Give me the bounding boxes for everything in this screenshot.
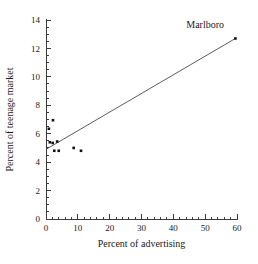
x-tick-label: 20	[105, 223, 115, 233]
x-tick-label: 40	[169, 223, 179, 233]
x-axis-tick-labels: 0102030405060	[44, 223, 242, 233]
x-axis-title: Percent of advertising	[98, 238, 186, 249]
scatter-chart-figure: 0102030405060 02468101214 Marlboro Perce…	[0, 0, 258, 264]
data-point	[234, 37, 237, 40]
data-point	[48, 127, 51, 130]
regression-fit-line	[46, 38, 235, 149]
y-tick-label: 0	[36, 214, 41, 224]
x-tick-label: 10	[73, 223, 83, 233]
data-point	[51, 142, 54, 145]
y-axis-title: Percent of teenage market	[4, 67, 15, 171]
scatter-plot-canvas: 0102030405060 02468101214 Marlboro Perce…	[0, 0, 258, 264]
x-tick-label: 0	[44, 223, 49, 233]
y-axis-tick-labels: 02468101214	[31, 15, 41, 224]
y-tick-label: 12	[31, 44, 40, 54]
data-point	[80, 149, 83, 152]
data-point	[72, 147, 75, 150]
annotation-group: Marlboro	[186, 19, 224, 30]
data-point	[57, 149, 60, 152]
x-tick-label: 50	[201, 223, 211, 233]
y-tick-label: 4	[36, 157, 41, 167]
annotation-marlboro: Marlboro	[186, 19, 224, 30]
x-tick-label: 60	[233, 223, 243, 233]
y-tick-label: 2	[36, 186, 41, 196]
y-tick-label: 14	[31, 15, 41, 25]
data-point	[52, 119, 55, 122]
x-axis-major-ticks	[46, 214, 237, 219]
y-tick-label: 10	[31, 72, 41, 82]
data-point	[56, 140, 59, 143]
data-point	[49, 141, 52, 144]
x-tick-label: 30	[137, 223, 147, 233]
data-point	[53, 149, 56, 152]
y-tick-label: 8	[36, 100, 41, 110]
y-tick-label: 6	[36, 129, 41, 139]
